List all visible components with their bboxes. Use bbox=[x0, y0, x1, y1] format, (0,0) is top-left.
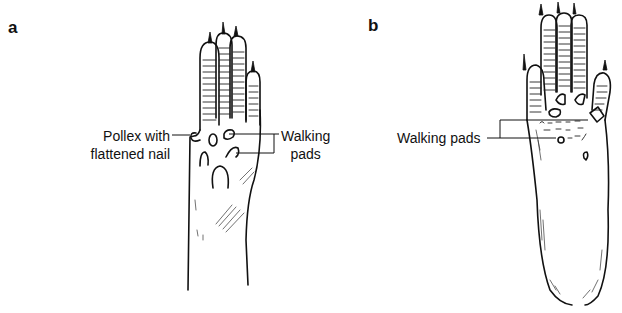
annotation-walking-pads-a-line2: pads bbox=[281, 145, 330, 163]
annotation-walking-pads-a-line1: Walking bbox=[281, 127, 330, 145]
hand-a-drawing bbox=[188, 22, 260, 290]
annotation-walking-pads-a: Walking pads bbox=[281, 127, 330, 163]
annotation-pollex-line2: flattened nail bbox=[91, 145, 170, 163]
leader-lines-a bbox=[172, 134, 279, 153]
annotation-pollex-line1: Pollex with bbox=[91, 127, 170, 145]
hand-b-drawing bbox=[523, 2, 610, 305]
annotation-pollex: Pollex with flattened nail bbox=[91, 127, 170, 163]
leader-lines-b bbox=[487, 120, 588, 138]
annotation-walking-pads-b: Walking pads bbox=[397, 129, 481, 147]
